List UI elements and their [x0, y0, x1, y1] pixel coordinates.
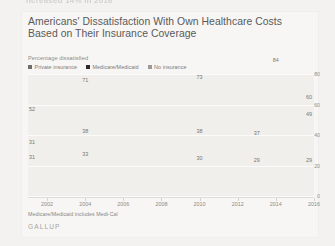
legend-item-private-insurance[interactable]: Private insurance — [28, 64, 77, 70]
legend-item-medicare-medicaid[interactable]: Medicare/Medicaid — [86, 64, 139, 70]
legend-swatch-no-insurance — [148, 65, 152, 69]
data-label: 73 — [197, 74, 203, 80]
legend-swatch-private-insurance — [28, 65, 32, 69]
data-label: 38 — [82, 128, 88, 134]
y-axis-tick-label: 0 — [317, 193, 320, 199]
data-label: 71 — [82, 77, 88, 83]
x-axis-tick-label: 2008 — [155, 201, 167, 207]
y-axis-tick-label: 60 — [314, 102, 320, 108]
x-axis-tick-label: 2012 — [232, 201, 244, 207]
legend-swatch-medicare-medicaid — [86, 65, 90, 69]
gridline — [28, 135, 314, 136]
legend-label-private-insurance: Private insurance — [35, 64, 78, 70]
data-label: 30 — [197, 155, 203, 161]
x-axis-tick-label: 2004 — [79, 201, 91, 207]
x-axis-tick-label: 2010 — [194, 201, 206, 207]
x-axis-tick-label: 2014 — [270, 201, 282, 207]
legend-item-no-insurance[interactable]: No insurance — [148, 64, 187, 70]
data-label: 33 — [82, 151, 88, 157]
x-axis-tick-label: 2006 — [117, 201, 129, 207]
footnote: Medicare/Medicaid includes Medi-Cal — [28, 211, 118, 217]
y-axis-tick-label: 40 — [314, 132, 320, 138]
legend-label-no-insurance: No insurance — [154, 64, 186, 70]
chart-card: Americans' Dissatisfaction With Own Heal… — [22, 12, 318, 237]
chart-title: Americans' Dissatisfaction With Own Heal… — [28, 16, 314, 41]
y-axis-tick-label: 20 — [314, 163, 320, 169]
legend-label-medicare-medicaid: Medicare/Medicaid — [93, 64, 139, 70]
data-label: 31 — [29, 139, 35, 145]
x-axis: 20022004200620082010201220142016 — [28, 198, 314, 210]
y-axis-tick-label: 80 — [314, 71, 320, 77]
gridline — [28, 105, 314, 106]
x-axis-tick-label: 2002 — [41, 201, 53, 207]
chart-subtitle: Percentage dissatisfied — [28, 55, 88, 61]
plot-area: 527173846031383837493133302929 — [28, 74, 314, 196]
x-axis-tick-mark — [161, 198, 162, 201]
data-label: 84 — [273, 57, 279, 63]
clipped-header-fragment: ncreased 14% in 2016 — [26, 0, 113, 5]
x-axis-tick-mark — [314, 198, 315, 201]
x-axis-tick-mark — [276, 198, 277, 201]
clipped-header-text: ncreased 14% in 2016 — [0, 0, 335, 12]
x-axis-tick-mark — [238, 198, 239, 201]
y-axis: 020406080 — [304, 74, 320, 196]
data-label: 52 — [29, 106, 35, 112]
data-label: 38 — [197, 128, 203, 134]
data-label: 37 — [254, 130, 260, 136]
x-axis-tick-mark — [123, 198, 124, 201]
data-label: 29 — [254, 157, 260, 163]
x-axis-tick-mark — [85, 198, 86, 201]
gallup-logo: GALLUP — [28, 223, 61, 230]
x-axis-tick-label: 2016 — [308, 201, 320, 207]
data-label: 31 — [29, 154, 35, 160]
x-axis-tick-mark — [47, 198, 48, 201]
gridline — [28, 166, 314, 167]
chart-legend: Private insurance Medicare/Medicaid No i… — [28, 64, 186, 70]
x-axis-tick-mark — [200, 198, 201, 201]
gridline — [28, 74, 314, 75]
